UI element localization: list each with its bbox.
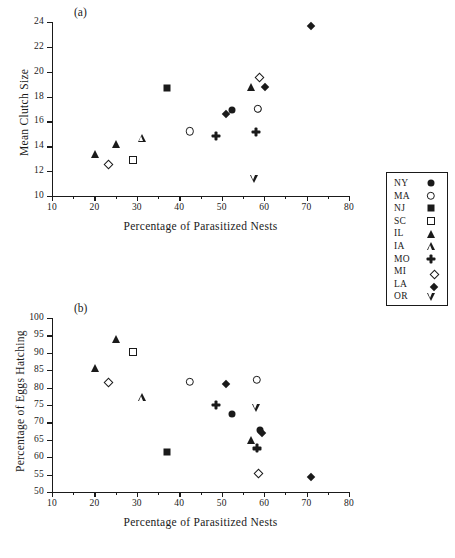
legend-item-nj: NJ [387, 202, 447, 215]
y-major-tick [47, 171, 52, 172]
legend-item-ny: NY [387, 177, 447, 190]
data-point-or [250, 175, 258, 183]
x-major-tick [349, 196, 350, 201]
legend-label-ny: NY [394, 177, 408, 190]
panel-b: (b)1020304050607080505560657075808590951… [52, 318, 349, 492]
y-major-tick [47, 72, 52, 73]
x-major-tick [52, 492, 53, 497]
y-major-tick [47, 492, 52, 493]
x-major-tick [264, 492, 265, 497]
legend-item-or: OR [387, 290, 447, 303]
data-point-ma [253, 376, 261, 384]
x-tick-label: 10 [38, 499, 66, 509]
y-axis-line [52, 318, 53, 493]
x-tick-label: 50 [208, 203, 236, 213]
legend-label-ma: MA [394, 190, 410, 203]
x-tick-label: 20 [80, 499, 108, 509]
legend-label-mo: MO [394, 253, 410, 266]
x-minor-tick [116, 492, 117, 495]
data-point-or [252, 404, 260, 412]
legend-marker-il [427, 230, 435, 238]
data-point-nj [163, 84, 170, 91]
legend-label-mi: MI [394, 265, 406, 278]
x-major-tick [52, 196, 53, 201]
x-tick-label: 80 [335, 203, 363, 213]
x-axis-title: Percentage of Parasitized Nests [108, 516, 294, 528]
legend-marker-ny [428, 180, 435, 187]
data-point-la [261, 83, 269, 91]
data-point-la [221, 110, 229, 118]
legend-label-ia: IA [394, 240, 405, 253]
data-point-il [247, 436, 255, 444]
x-minor-tick [243, 196, 244, 199]
legend-marker-mo [427, 254, 436, 263]
x-major-tick [222, 196, 223, 201]
y-major-tick [47, 335, 52, 336]
legend-label-il: IL [394, 227, 404, 240]
y-major-tick [47, 440, 52, 441]
data-point-mo [252, 444, 261, 453]
data-point-nj [163, 448, 170, 455]
x-minor-tick [285, 196, 286, 199]
x-major-tick [179, 492, 180, 497]
legend-marker-nj [428, 205, 435, 212]
panel-label-a: (a) [74, 6, 87, 18]
x-major-tick [137, 492, 138, 497]
data-point-mi [104, 160, 114, 170]
x-major-tick [137, 196, 138, 201]
y-major-tick [47, 22, 52, 23]
y-major-tick [47, 97, 52, 98]
legend-marker-or [427, 293, 435, 301]
y-tick-label: 50 [12, 487, 44, 497]
data-point-la [307, 473, 315, 481]
data-point-mo [251, 128, 260, 137]
x-tick-label: 80 [335, 499, 363, 509]
legend-item-ma: MA [387, 190, 447, 203]
x-major-tick [264, 196, 265, 201]
y-axis-line [52, 22, 53, 197]
legend-marker-sc [427, 217, 435, 225]
x-tick-label: 60 [250, 499, 278, 509]
x-tick-label: 40 [165, 499, 193, 509]
x-minor-tick [73, 196, 74, 199]
data-point-il [91, 364, 99, 372]
x-major-tick [94, 492, 95, 497]
x-major-tick [179, 196, 180, 201]
x-minor-tick [116, 196, 117, 199]
figure-scatter-plots: (a)10203040506070801012141618202224Perce… [0, 0, 455, 558]
x-major-tick [94, 196, 95, 201]
legend-item-sc: SC [387, 215, 447, 228]
x-minor-tick [158, 492, 159, 495]
x-major-tick [307, 492, 308, 497]
data-point-il [91, 150, 99, 158]
data-point-la [307, 22, 315, 30]
y-tick-label: 24 [12, 17, 44, 27]
data-point-mi [254, 73, 264, 83]
y-major-tick [47, 457, 52, 458]
data-point-il [112, 140, 120, 148]
data-point-mi [104, 377, 114, 387]
y-major-tick [47, 121, 52, 122]
chart-legend: NYMANJSCILIAMOMILAOR [386, 172, 448, 306]
panel-a: (a)10203040506070801012141618202224Perce… [52, 22, 349, 196]
data-point-ma [254, 105, 262, 113]
legend-item-ia: IA [387, 240, 447, 253]
legend-item-mo: MO [387, 253, 447, 266]
y-tick-label: 22 [12, 42, 44, 52]
x-minor-tick [243, 492, 244, 495]
data-point-sc [129, 348, 137, 356]
y-major-tick [47, 353, 52, 354]
y-major-tick [47, 196, 52, 197]
data-point-ia [138, 134, 146, 142]
data-point-ia [138, 393, 146, 401]
data-point-mi [253, 469, 263, 479]
x-minor-tick [73, 492, 74, 495]
x-tick-label: 40 [165, 203, 193, 213]
legend-label-nj: NJ [394, 202, 405, 215]
panel-label-b: (b) [74, 302, 87, 314]
legend-label-sc: SC [394, 215, 406, 228]
legend-marker-ma [427, 192, 435, 200]
x-tick-label: 10 [38, 203, 66, 213]
y-major-tick [47, 370, 52, 371]
data-point-il [112, 335, 120, 343]
